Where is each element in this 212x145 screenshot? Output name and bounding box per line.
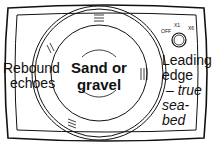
label-line: Leading xyxy=(162,53,212,68)
dial-off-label: OFF xyxy=(161,28,171,34)
range-knob[interactable] xyxy=(172,33,186,47)
label-line: echoes xyxy=(3,76,60,91)
label-line: – true xyxy=(162,83,212,98)
rebound-echoes-label: Rebound echoes xyxy=(3,61,60,91)
label-line: sea-bed xyxy=(162,98,212,128)
sand-gravel-label: Sand or gravel xyxy=(71,59,127,93)
label-line: Sand or xyxy=(71,59,127,76)
label-line: edge xyxy=(162,68,212,83)
dial-x1-label: X1 xyxy=(174,22,180,28)
dial-x6-label: X6 xyxy=(188,25,194,31)
label-line: Rebound xyxy=(3,61,60,76)
label-line: gravel xyxy=(71,76,127,93)
leading-edge-label: Leading edge – true sea-bed xyxy=(162,53,212,128)
